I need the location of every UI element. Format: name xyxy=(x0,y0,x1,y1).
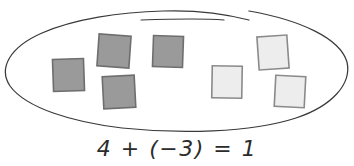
positive-counter[interactable] xyxy=(152,35,183,67)
negative-counter[interactable] xyxy=(212,66,243,99)
negative-counter-group xyxy=(212,35,306,108)
positive-counter[interactable] xyxy=(52,58,84,91)
oval-overlap-tail xyxy=(141,19,224,20)
positive-counter[interactable] xyxy=(97,34,131,68)
negative-counter[interactable] xyxy=(274,75,306,108)
positive-counter-group xyxy=(52,34,183,109)
diagram-canvas: 4 + (−3) = 1 xyxy=(0,0,354,166)
positive-counter[interactable] xyxy=(102,75,136,109)
diagram-scene xyxy=(0,0,354,166)
negative-counter[interactable] xyxy=(257,35,289,70)
